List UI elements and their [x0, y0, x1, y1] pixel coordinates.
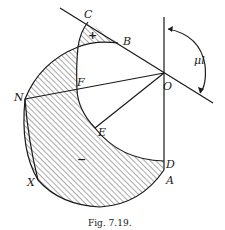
- label-N: N: [13, 91, 24, 104]
- label-angle: μl: [194, 54, 205, 67]
- label-A: A: [165, 174, 174, 187]
- positive-hatched-region: [78, 22, 118, 47]
- label-C: C: [84, 8, 93, 21]
- arrowhead-top-icon: [168, 26, 173, 32]
- label-B: B: [122, 35, 131, 48]
- sign-positive: +: [88, 29, 97, 42]
- figure-caption: Fig. 7.19.: [88, 218, 132, 228]
- label-O: O: [163, 80, 172, 93]
- label-D: D: [165, 158, 175, 171]
- line-o-e: [95, 73, 164, 128]
- label-X: X: [26, 176, 36, 189]
- label-E: E: [97, 126, 106, 139]
- label-F: F: [76, 76, 85, 89]
- sign-negative: −: [77, 153, 86, 166]
- figure-7-19: C B O F N E D A X μl + − Fig. 7.19.: [0, 0, 225, 230]
